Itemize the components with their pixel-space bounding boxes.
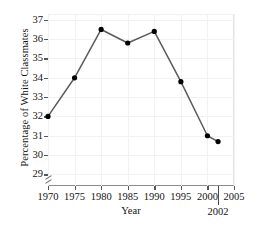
plot-area: 293031323334353637 197019751980198519901… (48, 14, 234, 186)
x-tick-label-2005: 2005 (224, 192, 245, 203)
x-tick-2000 (207, 186, 208, 190)
y-tick-label-35: 35 (33, 53, 44, 64)
year-2002-tick-line (218, 186, 219, 205)
data-point-1985 (125, 40, 130, 45)
series-markers (45, 27, 220, 144)
data-point-2002 (215, 139, 220, 144)
data-point-1970 (45, 114, 50, 119)
data-point-1990 (152, 29, 157, 34)
y-tick-label-37: 37 (33, 15, 44, 26)
x-tick-label-1990: 1990 (144, 192, 165, 203)
x-tick-label-1975: 1975 (64, 192, 85, 203)
y-tick-label-30: 30 (33, 150, 44, 161)
y-tick-label-36: 36 (33, 34, 44, 45)
chart-figure: Percentage of White Classmates 293031323… (0, 0, 262, 230)
x-tick-label-1985: 1985 (117, 192, 138, 203)
x-axis-title: Year (0, 205, 262, 216)
x-tick-label-1995: 1995 (170, 192, 191, 203)
x-tick-label-1970: 1970 (38, 192, 59, 203)
data-point-1995 (178, 79, 183, 84)
x-tick-1990 (154, 186, 155, 190)
y-tick-label-29: 29 (33, 169, 44, 180)
x-tick-1980 (101, 186, 102, 190)
y-tick-label-33: 33 (33, 92, 44, 103)
y-tick-label-31: 31 (33, 131, 44, 142)
gridline-v-2005 (234, 14, 235, 186)
x-tick-1995 (181, 186, 182, 190)
y-tick-label-32: 32 (33, 111, 44, 122)
series-plot (48, 14, 234, 186)
x-tick-1970 (48, 186, 49, 190)
data-point-1975 (72, 75, 77, 80)
x-tick-1975 (75, 186, 76, 190)
data-point-2000 (205, 133, 210, 138)
y-axis-title: Percentage of White Classmates (19, 8, 30, 188)
x-tick-label-1980: 1980 (91, 192, 112, 203)
data-point-1980 (99, 27, 104, 32)
y-tick-label-34: 34 (33, 73, 44, 84)
x-tick-label-2000: 2000 (197, 192, 218, 203)
series-line-white-classmates (48, 29, 218, 141)
x-tick-1985 (128, 186, 129, 190)
x-tick-2005 (234, 186, 235, 190)
